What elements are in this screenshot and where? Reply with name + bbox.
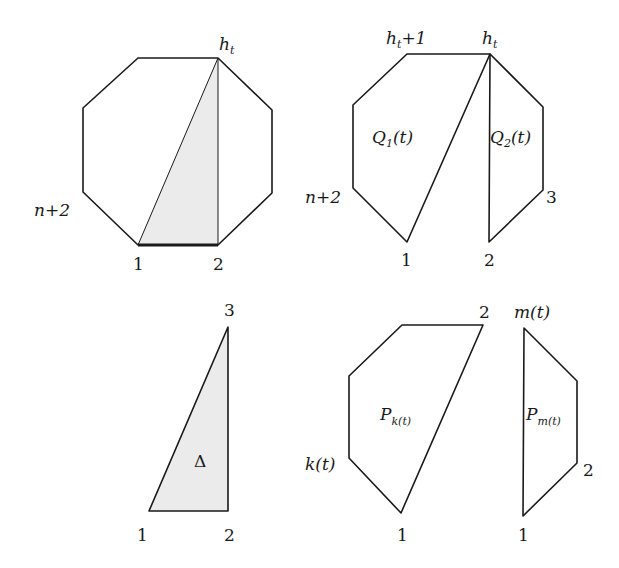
vertex-label-2: 2 xyxy=(484,250,495,270)
region-label-pm: Pm(t) xyxy=(525,404,561,428)
vertex-label-ht-plus-1: ht+1 xyxy=(386,28,426,51)
polygon-triangulation-diagram: ht n+2 1 2 ht+1 ht n+2 3 1 2 Q1(t) Q2(t)… xyxy=(0,0,619,568)
vertex-label-1: 1 xyxy=(137,525,148,545)
vertex-label-2: 2 xyxy=(224,525,235,545)
region-label-q2: Q2(t) xyxy=(490,127,531,150)
split-panel: ht+1 ht n+2 3 1 2 Q1(t) Q2(t) xyxy=(305,28,557,270)
triangle-panel: 3 1 2 Δ xyxy=(137,300,235,545)
polygon-pk xyxy=(349,325,483,513)
vertex-label-1: 1 xyxy=(401,250,412,270)
polygon-q1 xyxy=(353,54,490,242)
vertex-label-kt: k(t) xyxy=(305,454,335,474)
pm-panel: m(t) 2 1 Pm(t) xyxy=(514,302,594,545)
vertex-label-ht: ht xyxy=(482,28,498,51)
vertex-label-n2: n+2 xyxy=(305,187,341,207)
vertex-label-2: 2 xyxy=(213,254,224,274)
vertex-label-2: 2 xyxy=(479,302,490,322)
vertex-label-mt: m(t) xyxy=(514,302,550,322)
vertex-label-2: 2 xyxy=(583,460,594,480)
vertex-label-n2: n+2 xyxy=(34,200,70,220)
vertex-label-3: 3 xyxy=(546,187,557,207)
region-label-pk: Pk(t) xyxy=(379,404,411,428)
region-label-q1: Q1(t) xyxy=(372,127,413,150)
pk-panel: 2 k(t) 1 Pk(t) xyxy=(305,302,490,545)
vertex-label-1: 1 xyxy=(518,525,529,545)
vertex-label-ht: ht xyxy=(219,34,235,57)
vertex-label-1: 1 xyxy=(133,254,144,274)
region-label-delta: Δ xyxy=(194,451,206,471)
vertex-label-3: 3 xyxy=(224,300,235,320)
octagon-panel: ht n+2 1 2 xyxy=(34,34,272,274)
polygon-q2 xyxy=(489,54,543,242)
vertex-label-1: 1 xyxy=(397,525,408,545)
